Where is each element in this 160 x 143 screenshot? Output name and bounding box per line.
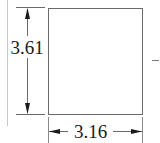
arrow-up-icon	[25, 8, 30, 19]
dimension-diagram: 3.61 3.16	[0, 0, 160, 143]
width-label: 3.16	[74, 121, 107, 142]
rectangle-shape	[49, 9, 143, 115]
arrow-down-icon	[25, 103, 30, 114]
arrow-left-icon	[49, 129, 60, 134]
height-label: 3.61	[10, 37, 43, 58]
arrow-right-icon	[131, 129, 142, 134]
